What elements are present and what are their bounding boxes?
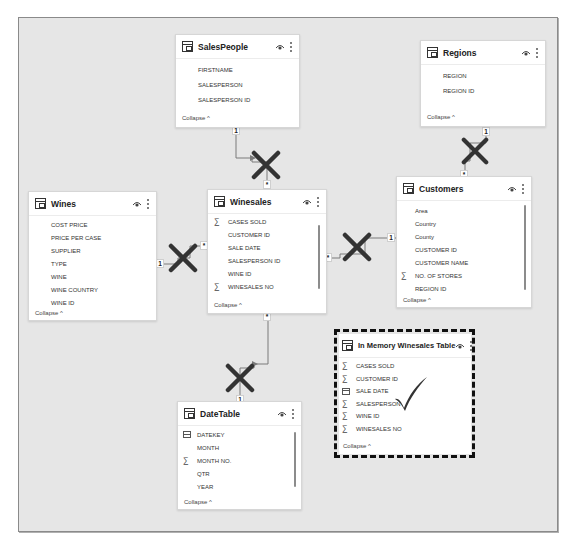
eye-icon[interactable] [277, 410, 287, 418]
table-header[interactable]: SalesPeople [176, 35, 299, 59]
rel-label-one: 1 [156, 259, 164, 268]
field-list: REGION REGION ID [421, 65, 545, 98]
table-card-datetable[interactable]: DateTable DATEKEY MONTH ∑MONTH NO. QTR Y… [177, 401, 302, 510]
field-item[interactable]: County [397, 230, 531, 243]
sigma-icon: ∑ [183, 457, 197, 465]
field-list: ∑CASES SOLD CUSTOMER ID SALE DATE SALESP… [208, 214, 326, 293]
field-item[interactable]: REGION [421, 68, 545, 83]
table-title: Customers [419, 184, 507, 194]
table-title: Winesales [230, 197, 302, 207]
field-item[interactable]: Country [397, 217, 531, 230]
field-item[interactable]: WINE COUNTRY [29, 283, 156, 296]
field-item[interactable]: SUPPLIER [29, 244, 156, 257]
collapse-button[interactable]: Collapse ^ [427, 114, 455, 120]
scrollbar[interactable] [524, 205, 526, 290]
table-title: Wines [51, 199, 132, 209]
table-card-customers[interactable]: Customers Area Country County CUSTOMER I… [396, 176, 532, 308]
table-header[interactable]: DateTable [178, 402, 301, 426]
more-options-icon[interactable] [317, 197, 320, 207]
field-item[interactable]: WINE ID [29, 296, 156, 309]
field-list: FIRSTNAME SALESPERSON SALESPERSON ID [176, 59, 299, 107]
more-options-icon[interactable] [536, 48, 539, 58]
table-title: DateTable [200, 409, 277, 419]
eye-icon[interactable] [132, 200, 142, 208]
table-icon [214, 196, 225, 207]
rel-label-many: * [263, 180, 271, 189]
field-item[interactable]: REGION ID [397, 282, 531, 295]
table-header[interactable]: Winesales [208, 190, 326, 214]
sigma-icon: ∑ [214, 218, 228, 226]
table-card-winesales[interactable]: Winesales ∑CASES SOLD CUSTOMER ID SALE D… [207, 189, 327, 314]
scrollbar[interactable] [318, 225, 320, 289]
field-item[interactable]: TYPE [29, 257, 156, 270]
collapse-button[interactable]: Collapse ^ [403, 297, 431, 303]
collapse-button[interactable]: Collapse ^ [184, 499, 212, 505]
field-item[interactable]: WINE [29, 270, 156, 283]
field-item[interactable]: ∑WINESALES NO [208, 280, 326, 293]
more-options-icon[interactable] [290, 42, 293, 52]
field-item[interactable]: FIRSTNAME [176, 62, 299, 77]
field-item[interactable]: DATEKEY [178, 428, 301, 441]
field-item[interactable]: COST PRICE [29, 218, 156, 231]
more-options-icon[interactable] [147, 199, 150, 209]
sigma-icon: ∑ [401, 272, 415, 280]
table-header[interactable]: Regions [421, 41, 545, 65]
field-item[interactable]: REGION ID [421, 83, 545, 98]
table-icon [184, 408, 195, 419]
field-item[interactable]: SALESPERSON [176, 77, 299, 92]
eye-icon[interactable] [302, 198, 312, 206]
eye-icon[interactable] [507, 185, 517, 193]
eye-icon[interactable] [521, 49, 531, 57]
scrollbar[interactable] [294, 432, 296, 487]
table-icon [182, 41, 193, 52]
field-item[interactable]: SALESPERSON ID [176, 92, 299, 107]
field-item[interactable]: CUSTOMER ID [208, 228, 326, 241]
table-icon [403, 183, 414, 194]
more-options-icon[interactable] [522, 184, 525, 194]
table-icon [35, 198, 46, 209]
field-item[interactable]: SALE DATE [208, 241, 326, 254]
field-item[interactable]: ∑NO. OF STORES [397, 269, 531, 282]
table-header[interactable]: Wines [29, 192, 156, 216]
eye-icon[interactable] [275, 43, 285, 51]
table-title: Regions [443, 48, 521, 58]
field-item[interactable]: MONTH [178, 441, 301, 454]
table-card-wines[interactable]: Wines COST PRICE PRICE PER CASE SUPPLIER… [28, 191, 157, 321]
table-header[interactable]: Customers [397, 177, 531, 201]
field-list: DATEKEY MONTH ∑MONTH NO. QTR YEAR [178, 426, 301, 493]
highlight-dashed-frame [334, 329, 475, 458]
sigma-icon: ∑ [214, 283, 228, 291]
rel-label-one: 1 [387, 233, 395, 242]
field-item[interactable]: CUSTOMER ID [397, 243, 531, 256]
field-item[interactable]: CUSTOMER NAME [397, 256, 531, 269]
rel-label-one: 1 [482, 127, 490, 136]
table-title: SalesPeople [198, 42, 275, 52]
field-item[interactable]: WINE ID [208, 267, 326, 280]
collapse-button[interactable]: Collapse ^ [35, 310, 63, 316]
table-card-salespeople[interactable]: SalesPeople FIRSTNAME SALESPERSON SALESP… [175, 34, 300, 128]
table-card-regions[interactable]: Regions REGION REGION ID Collapse ^ [420, 40, 546, 127]
table-icon [427, 47, 438, 58]
field-item[interactable]: Area [397, 204, 531, 217]
collapse-button[interactable]: Collapse ^ [214, 302, 242, 308]
field-item[interactable]: YEAR [178, 480, 301, 493]
field-item[interactable]: PRICE PER CASE [29, 231, 156, 244]
collapse-button[interactable]: Collapse ^ [182, 115, 210, 121]
more-options-icon[interactable] [292, 409, 295, 419]
field-item[interactable]: QTR [178, 467, 301, 480]
field-list: COST PRICE PRICE PER CASE SUPPLIER TYPE … [29, 216, 156, 309]
field-item[interactable]: ∑MONTH NO. [178, 454, 301, 467]
calendar-icon [183, 431, 191, 438]
field-item[interactable]: SALESPERSON ID [208, 254, 326, 267]
field-item[interactable]: ∑CASES SOLD [208, 215, 326, 228]
field-list: Area Country County CUSTOMER ID CUSTOMER… [397, 201, 531, 295]
